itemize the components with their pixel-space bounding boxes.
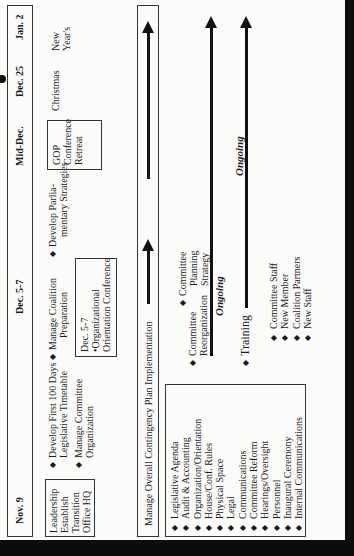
new-years-label: New Year's: [50, 27, 72, 51]
date-dec-5-7: Dec. 5-7: [14, 280, 25, 314]
manage-coalition-preparation: Manage Coalition Preparation: [47, 278, 69, 350]
text-line: Reorganization: [198, 295, 209, 356]
contingency-line-segment-1: [147, 249, 150, 304]
list-item: Physical Space: [214, 390, 225, 531]
christmas-label: Christmas: [50, 70, 61, 111]
date-dec-25: Dec. 25: [14, 66, 25, 97]
leadership-line: Transition: [70, 483, 81, 533]
text-line: Year's: [61, 27, 72, 51]
list-item: Committee Reform: [248, 390, 259, 531]
contingency-plan-bar: Manage Overall Contingency Plan Implemen…: [137, 5, 159, 537]
list-item: Legislative Agenda: [169, 390, 180, 531]
list-item: Coalition Partners: [291, 257, 302, 342]
committee-reorganization: Committee Reorganization: [187, 295, 209, 356]
committee-planning-strategy: Committee Planning Strategy: [177, 250, 210, 296]
training-ongoing-line: [245, 26, 248, 308]
scan-border-left: [0, 540, 354, 556]
list-item: Organization/Orientation: [192, 390, 203, 531]
text-line: Manage Committee: [73, 379, 84, 458]
manage-committee-organization: Manage Committee Organization: [73, 379, 95, 458]
leadership-line: Office HQ: [81, 483, 92, 533]
dec-5-7-conference-box: Dec. 5-7 •Organizational Orientation Con…: [75, 258, 117, 357]
date-mid-dec: Mid-Dec.: [14, 126, 25, 166]
develop-first-100-days: Develop First 100 Days Legislative Timet…: [47, 363, 69, 458]
text-line: Committee: [187, 295, 198, 356]
ongoing-label-1: Ongoing: [213, 276, 225, 316]
leadership-box: Leadership Establish Transition Office H…: [45, 479, 95, 537]
arrow-right-icon: [142, 239, 154, 251]
training-items: Committee Staff New Member Coalition Par…: [268, 257, 313, 342]
text-line: Retreat: [73, 125, 84, 165]
text-line: Develop Parlia-: [47, 162, 58, 247]
list-item: Internal Communications: [293, 390, 304, 531]
date-jan-2: Jan. 2: [14, 14, 25, 40]
text-line: Committee: [177, 250, 188, 296]
scan-border-bottom: [345, 0, 354, 556]
text-line: Legislative Timetable: [58, 363, 69, 458]
contingency-label: Manage Overall Contingency Plan Implemen…: [143, 322, 154, 526]
list-item: New Staff: [302, 257, 313, 342]
date-nov-9: Nov. 9: [14, 497, 25, 524]
text-line: Conference: [62, 125, 73, 165]
gop-conference-retreat-box: GOP Conference Retreat: [47, 120, 102, 170]
list-item: New Member: [279, 257, 290, 342]
text-line: Orientation Conference: [101, 263, 112, 352]
training-label: Training: [240, 315, 251, 356]
arrow-right-icon: [240, 16, 252, 28]
punch-hole-mark: [0, 75, 6, 83]
rotated-document-page: Nov. 9 Dec. 5-7 Mid-Dec. Dec. 25 Jan. 2 …: [0, 0, 354, 556]
text-line: Dec. 5-7: [79, 263, 90, 352]
arrow-right-icon: [205, 16, 217, 28]
text-line: Preparation: [58, 278, 69, 350]
text-line: mentary Strategies: [58, 162, 69, 247]
text-line: GOP: [51, 125, 62, 165]
list-item: Inaugural Ceremony: [282, 390, 293, 531]
list-item: Personnel: [271, 390, 282, 531]
leadership-line: Establish: [59, 483, 70, 533]
text-line: New: [50, 27, 61, 51]
contingency-line-segment-2: [147, 29, 150, 179]
list-item: Communications: [237, 390, 248, 531]
ongoing-label-2: Ongoing: [233, 136, 245, 176]
priorities-list-box: Legislative Agenda Audit & Accounting Or…: [165, 384, 306, 537]
text-line: Organization: [84, 379, 95, 458]
leadership-line: Leadership: [48, 483, 59, 533]
text-line: Manage Coalition: [47, 278, 58, 350]
timeline-header: Nov. 9 Dec. 5-7 Mid-Dec. Dec. 25 Jan. 2: [7, 5, 33, 537]
text-line: •Organizational: [90, 263, 101, 352]
text-line: Strategy: [199, 250, 210, 296]
list-item: Legal: [225, 390, 236, 531]
arrow-right-icon: [142, 21, 154, 33]
list-item: Hearings/Oversight: [259, 390, 270, 531]
text-line: Develop First 100 Days: [47, 363, 58, 458]
list-item: Audit & Accounting: [180, 390, 191, 531]
list-item: House/Conf. Rules: [203, 390, 214, 531]
text-line: Planning: [188, 250, 199, 296]
list-item: Committee Staff: [268, 257, 279, 342]
develop-parliamentary-strategies: Develop Parlia- mentary Strategies: [47, 162, 69, 247]
